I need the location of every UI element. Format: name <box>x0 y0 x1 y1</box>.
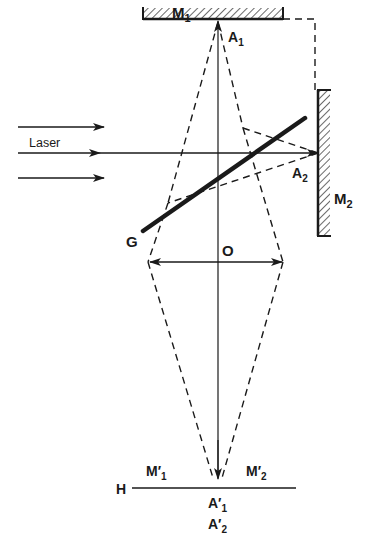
label-a2-prime: A′2 <box>208 516 227 535</box>
label-m1-prime: M′1 <box>146 463 167 482</box>
label-laser: Laser <box>29 136 60 150</box>
label-m1: M1 <box>172 4 191 24</box>
label-a1: A1 <box>228 29 244 48</box>
label-h: H <box>116 481 126 497</box>
label-o: O <box>222 242 234 259</box>
mirror-m1 <box>143 7 283 20</box>
mirror-m2 <box>317 90 331 236</box>
label-g: G <box>126 233 138 250</box>
laser-rays <box>18 127 318 178</box>
label-m2: M2 <box>334 190 353 210</box>
interferometer-diagram: M1 A1 M2 A2 Laser G <box>0 0 374 545</box>
label-a1-prime: A′1 <box>208 495 227 514</box>
beam-splitter-g <box>143 118 305 231</box>
label-m2-prime: M′2 <box>246 463 267 482</box>
label-a2: A2 <box>292 165 308 184</box>
